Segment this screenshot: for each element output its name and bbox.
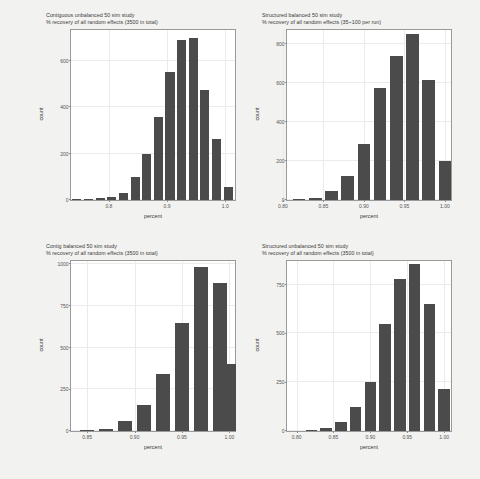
y-tick-label: 400 — [60, 104, 71, 110]
y-tick-label: 600 — [60, 58, 71, 64]
gridline-horizontal — [287, 284, 451, 285]
histogram-bar — [189, 38, 198, 201]
y-tick-mark — [285, 284, 287, 285]
panel-bottom-left: Contig balanced 50 sim study% recovery o… — [46, 243, 242, 465]
panel-title-top-left: Contiguous unbalanced 50 sim study% reco… — [46, 12, 242, 25]
y-tick-label: 0 — [66, 197, 71, 203]
histogram-bar — [374, 88, 387, 200]
histogram-bar — [212, 139, 221, 201]
plot-area-top-left: 02004006000.80.91.0percentcount — [46, 26, 242, 231]
x-tick-mark — [333, 431, 334, 433]
histogram-bar — [177, 40, 186, 200]
gridline-horizontal — [71, 430, 235, 431]
y-tick-mark — [285, 382, 287, 383]
panel-bottom-right: Structured unbalanced 50 sim study% reco… — [262, 243, 458, 465]
gridline-horizontal — [71, 263, 235, 264]
y-tick-mark — [69, 430, 71, 431]
x-axis-label: percent — [286, 213, 452, 219]
histogram-bar — [224, 187, 233, 200]
gridline-vertical — [333, 261, 334, 431]
y-tick-mark — [69, 60, 71, 61]
histogram-bar — [200, 90, 209, 200]
y-tick-label: 750 — [276, 282, 287, 288]
histogram-bar — [154, 117, 163, 201]
x-tick-mark — [364, 200, 365, 202]
y-tick-mark — [285, 82, 287, 83]
gridline-horizontal — [71, 106, 235, 107]
histogram-bar — [293, 199, 306, 200]
gridline-horizontal — [71, 347, 235, 348]
y-tick-label: 400 — [276, 119, 287, 125]
plot-area-top-right: 02004006008000.800.850.900.951.00percent… — [262, 26, 458, 231]
histogram-bar — [358, 144, 371, 201]
y-tick-label: 0 — [66, 428, 71, 434]
x-tick-mark — [87, 431, 88, 433]
x-tick-mark — [323, 200, 324, 202]
histogram-bar — [119, 193, 128, 200]
y-tick-label: 500 — [276, 330, 287, 336]
y-axis-label: count — [254, 339, 260, 352]
y-tick-mark — [69, 347, 71, 348]
histogram-bar — [96, 198, 105, 200]
y-tick-label: 600 — [276, 80, 287, 86]
plot-area-bottom-right: 02505007500.800.850.900.951.00percentcou… — [262, 257, 458, 462]
plot-frame: 02505007500.800.850.900.951.00 — [286, 260, 452, 432]
gridline-vertical — [87, 261, 88, 431]
histogram-bar — [438, 389, 450, 431]
gridline-vertical — [323, 30, 324, 200]
gridline-vertical — [297, 261, 298, 431]
y-tick-label: 250 — [276, 379, 287, 385]
y-tick-label: 200 — [276, 158, 287, 164]
histogram-bar — [394, 279, 406, 431]
x-tick-mark — [109, 200, 110, 202]
gridline-vertical — [109, 30, 110, 200]
histogram-bar — [390, 56, 403, 201]
x-tick-mark — [444, 431, 445, 433]
x-tick-mark — [229, 431, 230, 433]
y-tick-mark — [285, 333, 287, 334]
histogram-bar — [306, 430, 318, 431]
panel-top-left: Contiguous unbalanced 50 sim study% reco… — [46, 12, 242, 234]
y-tick-mark — [69, 153, 71, 154]
y-tick-label: 1000 — [57, 261, 71, 267]
histogram-bar — [350, 407, 362, 431]
panel-title-bottom-right: Structured unbalanced 50 sim study% reco… — [262, 243, 458, 256]
panel-title-bottom-left: Contig balanced 50 sim study% recovery o… — [46, 243, 242, 256]
x-tick-mark — [407, 431, 408, 433]
histogram-bar — [72, 199, 81, 200]
histogram-bar — [222, 364, 236, 431]
gridline-horizontal — [71, 388, 235, 389]
x-tick-mark — [283, 200, 284, 202]
x-axis-label: percent — [286, 444, 452, 450]
histogram-bar — [406, 34, 419, 200]
x-axis-label: percent — [70, 213, 236, 219]
histogram-bar — [131, 177, 140, 200]
y-tick-mark — [69, 263, 71, 264]
x-tick-mark — [297, 431, 298, 433]
histogram-bar — [194, 267, 208, 431]
histogram-bar — [365, 382, 377, 431]
histogram-bar — [99, 429, 113, 432]
histogram-bar — [325, 191, 338, 200]
y-tick-label: 800 — [276, 41, 287, 47]
y-axis-label: count — [38, 108, 44, 121]
y-tick-mark — [285, 43, 287, 44]
panel-title-top-right: Structured balanced 50 sim study% recove… — [262, 12, 458, 25]
x-axis-label: percent — [70, 444, 236, 450]
y-tick-mark — [69, 199, 71, 200]
histogram-bar — [142, 154, 151, 200]
histogram-bar — [335, 422, 347, 431]
gridline-vertical — [135, 261, 136, 431]
x-tick-mark — [445, 200, 446, 202]
gridline-vertical — [225, 30, 226, 200]
y-tick-label: 0 — [282, 428, 287, 434]
plot-frame: 025050075010000.850.900.951.00 — [70, 260, 236, 432]
x-tick-mark — [135, 431, 136, 433]
histogram-bar — [165, 72, 174, 200]
y-tick-mark — [285, 121, 287, 122]
panel-top-right: Structured balanced 50 sim study% recove… — [262, 12, 458, 234]
x-tick-mark — [370, 431, 371, 433]
x-tick-mark — [404, 200, 405, 202]
histogram-bar — [379, 324, 391, 432]
plot-area-bottom-left: 025050075010000.850.900.951.00percentcou… — [46, 257, 242, 462]
